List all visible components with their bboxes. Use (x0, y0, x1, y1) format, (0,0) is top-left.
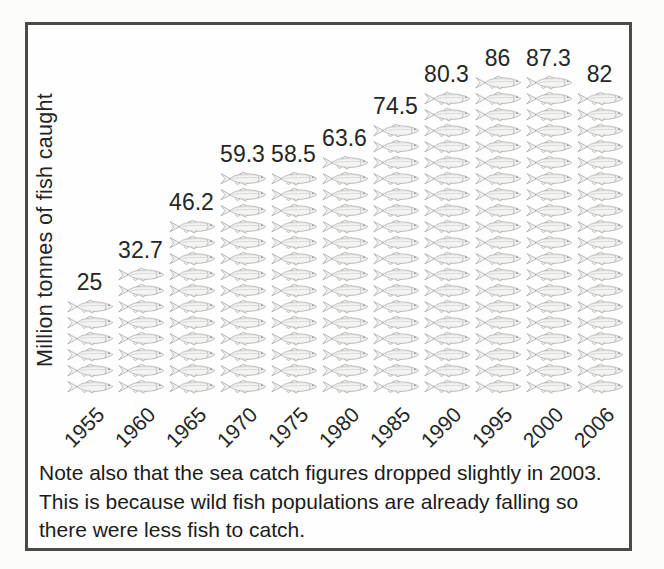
fish-icon (423, 187, 471, 202)
fish-icon (372, 363, 420, 378)
fish-icon (117, 331, 165, 346)
pictogram-column-1985: 74.5 (370, 95, 421, 395)
value-label: 46.2 (169, 191, 214, 214)
fish-icon (117, 267, 165, 282)
fish-icon (423, 331, 471, 346)
fish-icon (117, 363, 165, 378)
fish-icon (525, 187, 573, 202)
fish-icon (576, 379, 624, 394)
fish-icon (270, 235, 318, 250)
y-axis-label: Million tonnes of fish caught (33, 85, 59, 375)
fish-icon (270, 251, 318, 266)
value-label: 80.3 (424, 63, 469, 86)
fish-icon (525, 251, 573, 266)
pictogram-column-1965: 46.2 (166, 191, 217, 395)
fish-icon (321, 283, 369, 298)
fish-icon (117, 347, 165, 362)
fish-icon (474, 91, 522, 106)
fish-icon (474, 251, 522, 266)
fish-icon (423, 251, 471, 266)
fish-icon (117, 299, 165, 314)
fish-icon (66, 299, 114, 314)
fish-icon (576, 251, 624, 266)
fish-icon (423, 283, 471, 298)
fish-icon (423, 235, 471, 250)
fish-icon (321, 155, 369, 170)
fish-icon (372, 155, 420, 170)
x-tick-label: 1985 (365, 402, 415, 452)
fish-icon (576, 347, 624, 362)
fish-icon (525, 315, 573, 330)
fish-icon (321, 251, 369, 266)
fish-icon (423, 171, 471, 186)
fish-icon (66, 379, 114, 394)
fish-icon (321, 219, 369, 234)
fish-icon (576, 315, 624, 330)
fish-icon (219, 379, 267, 394)
value-label: 59.3 (220, 143, 265, 166)
fish-icon (474, 187, 522, 202)
fish-icon (168, 379, 216, 394)
fish-icon (423, 155, 471, 170)
fish-icon (525, 219, 573, 234)
fish-icon (372, 171, 420, 186)
chart-frame: Million tonnes of fish caught 2532.746.2… (25, 22, 632, 551)
fish-icon (321, 347, 369, 362)
fish-icon (372, 331, 420, 346)
fish-icon (423, 363, 471, 378)
pictogram-column-2006: 82 (574, 63, 625, 395)
fish-icon (576, 123, 624, 138)
fish-icon (423, 91, 471, 106)
fish-icon (576, 331, 624, 346)
fish-icon (270, 219, 318, 234)
fish-icon (168, 267, 216, 282)
value-label: 63.6 (322, 127, 367, 150)
fish-icon (372, 267, 420, 282)
fish-icon (219, 347, 267, 362)
fish-icon (321, 171, 369, 186)
fish-icon (372, 315, 420, 330)
fish-icon (168, 347, 216, 362)
fish-icon (270, 379, 318, 394)
fish-icon (423, 347, 471, 362)
pictogram-column-1955: 25 (64, 271, 115, 395)
x-tick-1995: 1995 (472, 396, 523, 458)
x-tick-label: 1965 (161, 402, 211, 452)
fish-icon (66, 315, 114, 330)
fish-icon (117, 379, 165, 394)
value-label: 86 (485, 47, 511, 70)
pictogram-column-1970: 59.3 (217, 143, 268, 395)
x-tick-1980: 1980 (319, 396, 370, 458)
x-axis-labels: 1955196019651970197519801985199019952000… (64, 396, 625, 458)
value-label: 58.5 (271, 143, 316, 166)
fish-icon (576, 235, 624, 250)
fish-icon (270, 299, 318, 314)
x-tick-1960: 1960 (115, 396, 166, 458)
fish-icon (372, 123, 420, 138)
fish-icon (474, 331, 522, 346)
note-text: Note also that the sea catch figures dro… (39, 459, 629, 545)
x-tick-label: 2000 (518, 402, 568, 452)
fish-icon (423, 219, 471, 234)
x-tick-2006: 2006 (574, 396, 625, 458)
fish-icon (525, 203, 573, 218)
fish-icon (576, 299, 624, 314)
x-tick-label: 1990 (416, 402, 466, 452)
fish-icon (219, 283, 267, 298)
fish-icon (372, 139, 420, 154)
x-tick-1970: 1970 (217, 396, 268, 458)
fish-icon (576, 107, 624, 122)
fish-icon (219, 331, 267, 346)
fish-icon (474, 107, 522, 122)
x-tick-label: 2006 (569, 402, 619, 452)
fish-icon (525, 379, 573, 394)
pictogram-columns: 2532.746.259.358.563.674.580.38687.382 (64, 25, 625, 395)
fish-icon (474, 363, 522, 378)
fish-icon (270, 171, 318, 186)
fish-icon (321, 315, 369, 330)
fish-icon (219, 203, 267, 218)
fish-icon (66, 363, 114, 378)
fish-icon (423, 299, 471, 314)
fish-icon (474, 299, 522, 314)
fish-icon (423, 267, 471, 282)
